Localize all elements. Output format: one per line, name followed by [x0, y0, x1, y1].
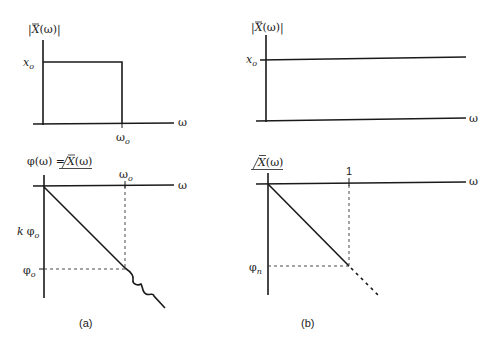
panel-b-phase-plot: X(ω) 1 ω φn (b)	[249, 156, 478, 330]
panel-b-magnitude-x-axis	[256, 118, 466, 121]
panel-b-magnitude-xlabel: ω	[469, 112, 478, 125]
panel-b-phi-label: φn	[249, 261, 262, 276]
panel-a-magnitude-xlabel: ω	[178, 116, 187, 129]
figure-canvas: |X(ω)| ω xo ωo φ(ω) = X(ω)	[0, 0, 491, 342]
panel-a-magnitude-pulse	[43, 62, 122, 124]
panel-a-magnitude-x-axis	[33, 123, 174, 124]
panel-b-level-label: xo	[246, 53, 257, 68]
panel-a-k-phi-label: kφo	[17, 225, 39, 240]
panel-a-phase-ylabel: φ(ω) =	[27, 155, 65, 168]
panel-b-phase-x-axis	[256, 182, 466, 184]
panel-a-cutoff-label: ωo	[116, 131, 130, 146]
panel-b-magnitude-ylabel: |X(ω)|	[251, 21, 284, 35]
panel-b-linear-phase-line	[268, 184, 349, 266]
panel-b-caption: (b)	[301, 317, 314, 329]
panel-a-phi-label: φo	[23, 264, 36, 279]
panel-a-phase-xlabel: ω	[178, 179, 187, 192]
panel-a-linear-phase-line	[44, 187, 125, 268]
panel-a-caption: (a)	[79, 317, 92, 329]
panel-a-phase-cutoff-label: ωo	[119, 168, 133, 183]
panel-b-phase-dashed-continuation	[351, 268, 379, 296]
panel-b-phase-xlabel: ω	[469, 175, 478, 188]
panel-a-phase-plot: φ(ω) = X(ω) ωo ω kφo φo	[17, 155, 187, 329]
panel-a-phase-angle-arg: X(ω)	[66, 155, 92, 168]
panel-a-phase-x-axis	[33, 185, 174, 186]
panel-b-magnitude-plot: |X(ω)| ω xo	[246, 21, 478, 125]
panel-b-phase-ylabel: X(ω)	[257, 156, 283, 169]
panel-a-wavy-phase-continuation	[125, 268, 165, 308]
panel-b-tick-label: 1	[346, 165, 352, 177]
panel-a-level-label: xo	[23, 56, 34, 71]
panel-b-constant-magnitude-line	[260, 57, 466, 60]
panel-a-magnitude-ylabel: |X(ω)|	[28, 23, 61, 37]
panel-a-magnitude-plot: |X(ω)| ω xo ωo	[23, 23, 187, 146]
